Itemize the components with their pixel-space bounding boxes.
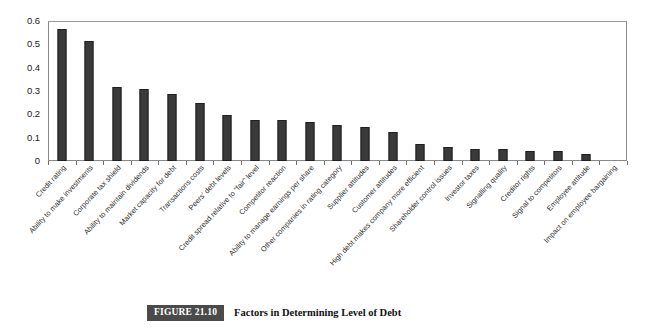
bar-slot (158, 21, 186, 161)
bar (443, 147, 452, 161)
bar-slot (489, 21, 517, 161)
bar-slot (103, 21, 131, 161)
x-axis-category-label: Signal to competitors (511, 164, 564, 220)
y-axis: 00.10.20.30.40.50.6 (0, 21, 44, 161)
figure-caption-title: Factors in Determining Level of Debt (234, 308, 401, 319)
figure-container: 00.10.20.30.40.50.6 Credit ratingAbility… (0, 0, 647, 331)
bar (278, 120, 287, 161)
bar-slot (76, 21, 104, 161)
figure-number-badge: FIGURE 21.10 (147, 305, 224, 321)
bar (554, 151, 563, 161)
bar (471, 149, 480, 161)
bar-slot (544, 21, 572, 161)
bar (388, 132, 397, 161)
bar-slot (462, 21, 490, 161)
bar-slot (379, 21, 407, 161)
bar (168, 94, 177, 161)
bar-slot (131, 21, 159, 161)
bar (57, 29, 66, 161)
bar-slot (296, 21, 324, 161)
y-axis-tick-label: 0.4 (27, 63, 40, 73)
bar-slot (48, 21, 76, 161)
bar-chart: 00.10.20.30.40.50.6 Credit ratingAbility… (0, 0, 647, 296)
bar (250, 120, 259, 161)
y-axis-tick-label: 0.2 (27, 110, 40, 120)
bar-slot (572, 21, 600, 161)
bar-slot (269, 21, 297, 161)
bar (305, 122, 314, 161)
bar-slot (186, 21, 214, 161)
y-axis-tick-label: 0.6 (27, 16, 40, 26)
x-axis-tick (627, 161, 628, 165)
bar-slot (351, 21, 379, 161)
bars-layer (48, 21, 627, 161)
bar (526, 151, 535, 161)
y-axis-tick-label: 0.1 (27, 133, 40, 143)
x-axis-labels: Credit ratingAbility to make investments… (48, 164, 627, 290)
bar (498, 149, 507, 161)
bar-slot (241, 21, 269, 161)
bar-slot (213, 21, 241, 161)
bar (195, 103, 204, 161)
bar (223, 115, 232, 161)
bar-slot (324, 21, 352, 161)
bar (112, 87, 121, 161)
bar (581, 154, 590, 161)
bar-slot (434, 21, 462, 161)
figure-caption-row: FIGURE 21.10 Factors in Determining Leve… (0, 304, 647, 322)
bar (85, 41, 94, 161)
bar (361, 127, 370, 161)
y-axis-tick-label: 0.3 (27, 86, 40, 96)
y-axis-tick-label: 0 (35, 156, 40, 166)
y-axis-tick-label: 0.5 (27, 40, 40, 50)
bar-slot (406, 21, 434, 161)
bar-slot (517, 21, 545, 161)
bar-slot (599, 21, 627, 161)
bar (333, 125, 342, 161)
bar (140, 89, 149, 161)
bar (416, 144, 425, 161)
